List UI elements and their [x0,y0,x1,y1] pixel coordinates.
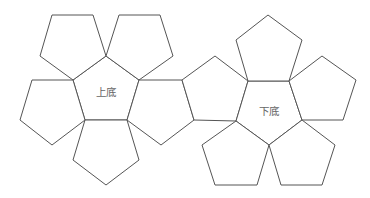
pentagon-faces [20,15,356,185]
pentagon-face-right-petal [127,80,194,145]
dodecahedron-net-diagram: 上底 下底 [0,0,370,198]
pentagon-face-left-petal [20,80,85,145]
pentagon-face-upper-right-petal [289,56,356,120]
pentagon-face-connector [182,56,248,121]
top-base-label: 上底 [96,86,117,98]
pentagon-face-bottom-petal [73,120,139,185]
pentagon-face-upper-petal [236,15,302,81]
bottom-base-label: 下底 [259,105,280,117]
